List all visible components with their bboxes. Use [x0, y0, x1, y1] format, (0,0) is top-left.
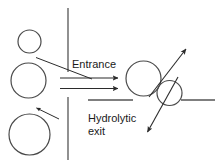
entrance-label: Entrance — [72, 58, 116, 71]
hydrolytic-exit-arrow-up — [149, 49, 186, 97]
membrane-wall-group — [68, 8, 215, 160]
hydrolytic-exit-label-line2: exit — [88, 125, 105, 137]
circle-bottom-left — [9, 114, 50, 155]
circle-top-left — [18, 30, 41, 53]
diagram-canvas: Entrance Hydrolyticexit — [0, 0, 220, 166]
hydrolytic-exit-label-line1: Hydrolytic — [88, 112, 136, 124]
circle-mid-left — [11, 63, 46, 98]
circle-right-large — [126, 61, 161, 96]
hydrolytic-exit-label: Hydrolyticexit — [88, 112, 136, 137]
diagram-graphics — [0, 0, 220, 166]
